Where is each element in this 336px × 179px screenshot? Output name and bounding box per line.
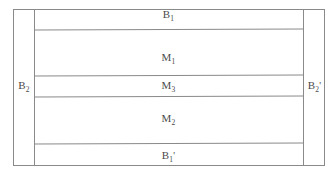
band-label-m3: M3 xyxy=(34,80,303,94)
band-label-m1-subscript: 1 xyxy=(172,57,176,66)
column-label-b2-base: B xyxy=(18,79,26,91)
column-label-b2-subscript: 2 xyxy=(26,85,30,94)
band-label-b1-prime: B1' xyxy=(34,150,303,164)
band-label-b1-subscript: 1 xyxy=(170,14,174,23)
band-label-b1p-prime: ' xyxy=(173,150,175,161)
column-label-b2-prime: B2' xyxy=(304,80,325,94)
band-label-m3-base: M xyxy=(162,79,172,91)
band-label-m2-base: M xyxy=(162,112,172,124)
band-label-m2-subscript: 2 xyxy=(172,118,176,127)
band-label-m1: M1 xyxy=(34,52,303,66)
band-label-m1-base: M xyxy=(162,51,172,63)
band-label-m2: M2 xyxy=(34,113,303,127)
band-label-m3-subscript: 3 xyxy=(172,85,176,94)
column-label-b2p-prime: ' xyxy=(319,80,321,91)
column-label-b2: B2 xyxy=(14,80,34,94)
band-label-b1: B1 xyxy=(34,9,303,23)
layered-structure-diagram: B1 M1 M3 M2 B1' B2 B2' xyxy=(0,0,336,179)
